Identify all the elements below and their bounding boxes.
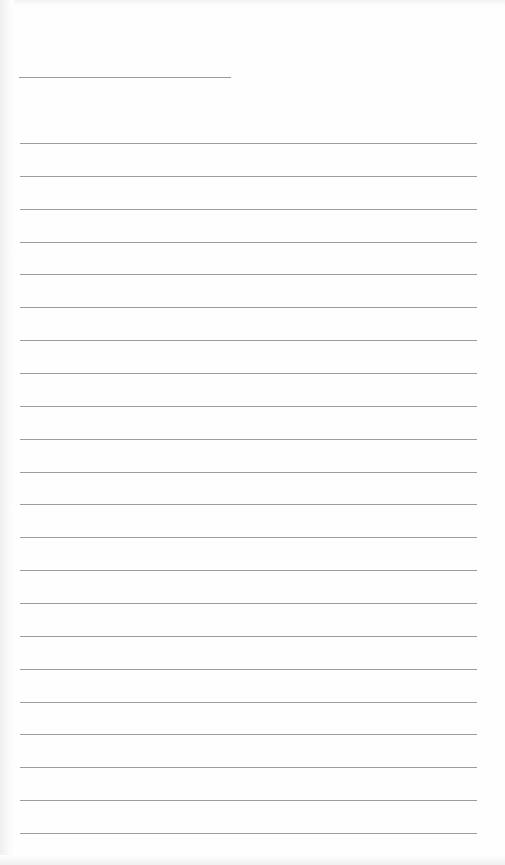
writing-line [20,570,477,571]
writing-line [20,669,477,670]
writing-line [20,143,477,144]
writing-line [20,176,477,177]
scan-bottom-edge [0,855,505,865]
writing-line [20,833,477,834]
writing-line [20,767,477,768]
writing-line [20,800,477,801]
writing-line [20,702,477,703]
writing-line [20,209,477,210]
writing-line [20,734,477,735]
lined-page [0,0,505,865]
writing-line [20,504,477,505]
writing-line [20,242,477,243]
writing-line [20,439,477,440]
writing-line [20,472,477,473]
writing-line [20,406,477,407]
writing-line [20,636,477,637]
writing-line [20,340,477,341]
writing-line [20,537,477,538]
writing-line [20,274,477,275]
writing-line [20,603,477,604]
writing-line [20,307,477,308]
writing-lines [0,0,505,865]
writing-line [20,373,477,374]
